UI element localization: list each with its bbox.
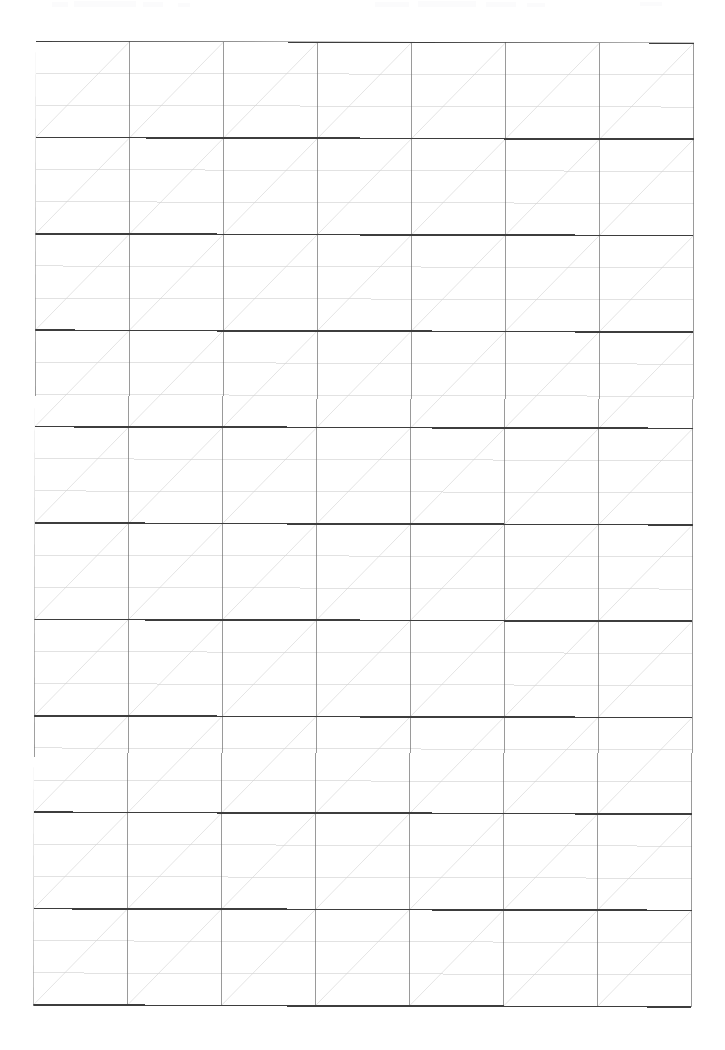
guide-line bbox=[35, 266, 693, 268]
cell-diagonal bbox=[222, 620, 316, 717]
major-row-line bbox=[34, 909, 692, 911]
cell-diagonal bbox=[317, 331, 411, 428]
cell-diagonal bbox=[316, 813, 410, 910]
major-row-line bbox=[35, 427, 693, 429]
cell-diagonal bbox=[598, 525, 692, 622]
cell-diagonal bbox=[411, 235, 505, 332]
cell-diagonal bbox=[599, 139, 693, 236]
cell-diagonal bbox=[410, 524, 504, 621]
cell-diagonal bbox=[597, 910, 691, 1007]
cell-diagonal bbox=[34, 716, 128, 813]
major-row-line bbox=[35, 234, 693, 236]
cell-diagonal bbox=[128, 620, 222, 717]
guide-line bbox=[35, 491, 693, 493]
cell-diagonal bbox=[35, 137, 129, 234]
guide-line bbox=[33, 941, 691, 943]
cell-diagonal bbox=[410, 717, 504, 814]
guide-line bbox=[35, 362, 693, 364]
scan-artifact bbox=[418, 1, 476, 7]
cell-diagonal bbox=[223, 234, 317, 331]
cell-diagonal bbox=[223, 427, 317, 524]
cell-diagonal bbox=[222, 813, 316, 910]
cell-diagonal bbox=[33, 909, 127, 1006]
cell-diagonal bbox=[411, 331, 505, 428]
cell-diagonal bbox=[505, 332, 599, 429]
cell-diagonal bbox=[222, 524, 316, 621]
major-row-line bbox=[36, 41, 694, 43]
cell-diagonal bbox=[128, 523, 222, 620]
scan-artifact bbox=[640, 2, 662, 6]
guide-line bbox=[34, 876, 692, 878]
guide-line bbox=[34, 844, 692, 846]
cell-diagonal bbox=[35, 330, 129, 427]
cell-diagonal bbox=[316, 524, 410, 621]
guide-line bbox=[33, 973, 691, 975]
cell-diagonal bbox=[223, 331, 317, 428]
cell-diagonal bbox=[130, 41, 224, 138]
guide-line bbox=[34, 587, 692, 589]
cell-diagonal bbox=[128, 716, 222, 813]
cell-diagonal bbox=[598, 717, 692, 814]
guide-line bbox=[35, 459, 693, 461]
cell-diagonal bbox=[128, 812, 222, 909]
scan-artifact bbox=[486, 2, 516, 7]
cell-diagonal bbox=[317, 235, 411, 332]
cell-diagonal bbox=[316, 620, 410, 717]
cell-diagonal bbox=[409, 910, 503, 1007]
guide-line bbox=[36, 202, 694, 204]
calligraphy-practice-grid bbox=[33, 41, 698, 1011]
major-row-line bbox=[34, 716, 692, 718]
cell-diagonal bbox=[316, 717, 410, 814]
cell-diagonal bbox=[129, 234, 223, 331]
cell-diagonal bbox=[222, 716, 316, 813]
cell-diagonal bbox=[34, 812, 128, 909]
cell-diagonal bbox=[599, 235, 693, 332]
guide-line bbox=[34, 684, 692, 686]
cell-diagonal bbox=[35, 427, 129, 524]
cell-diagonal bbox=[412, 42, 506, 139]
cell-diagonal bbox=[223, 138, 317, 235]
scan-artifact bbox=[52, 2, 68, 7]
cell-diagonal bbox=[506, 42, 600, 139]
cell-diagonal bbox=[129, 138, 223, 235]
cell-diagonal bbox=[600, 43, 694, 140]
cell-diagonal bbox=[318, 42, 412, 139]
major-row-line bbox=[36, 137, 694, 139]
scan-artifact bbox=[143, 2, 163, 7]
guide-line bbox=[34, 652, 692, 654]
guide-line bbox=[36, 105, 694, 107]
cell-diagonal bbox=[504, 814, 598, 911]
cell-diagonal bbox=[503, 910, 597, 1007]
cell-diagonal bbox=[129, 330, 223, 427]
cell-diagonal bbox=[598, 621, 692, 718]
cell-diagonal bbox=[599, 428, 693, 525]
cell-diagonal bbox=[505, 428, 599, 525]
guide-line bbox=[34, 780, 692, 782]
cell-diagonal bbox=[224, 42, 318, 139]
cell-diagonal bbox=[410, 813, 504, 910]
cell-diagonal bbox=[505, 235, 599, 332]
cell-diagonal bbox=[315, 909, 409, 1006]
cell-diagonal bbox=[221, 909, 315, 1006]
cell-diagonal bbox=[411, 428, 505, 525]
guide-line bbox=[35, 394, 693, 396]
major-row-line bbox=[34, 812, 692, 814]
guide-line bbox=[35, 298, 693, 300]
major-row-line bbox=[35, 523, 693, 525]
scanned-page bbox=[0, 0, 725, 1050]
scan-artifact bbox=[178, 3, 190, 7]
cell-diagonal bbox=[36, 41, 130, 138]
scan-artifact bbox=[527, 3, 545, 7]
cell-diagonal bbox=[599, 332, 693, 429]
cell-diagonal bbox=[317, 138, 411, 235]
guide-line bbox=[35, 555, 693, 557]
cell-diagonal bbox=[504, 717, 598, 814]
major-row-line bbox=[35, 330, 693, 332]
major-row-line bbox=[33, 1005, 691, 1007]
cell-diagonal bbox=[34, 619, 128, 716]
cell-diagonal bbox=[504, 621, 598, 718]
cell-diagonal bbox=[411, 138, 505, 235]
scan-artifact bbox=[74, 1, 136, 7]
cell-diagonal bbox=[410, 620, 504, 717]
cell-diagonal bbox=[504, 524, 598, 621]
